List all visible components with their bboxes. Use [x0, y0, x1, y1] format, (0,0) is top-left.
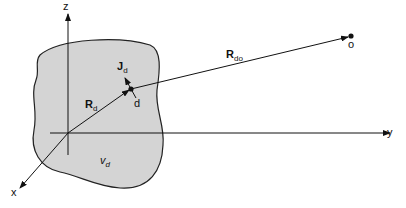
volume-region — [33, 40, 163, 188]
vector-r-d-label: Rd — [85, 99, 97, 113]
volume-label: vd — [100, 155, 110, 169]
x-axis-label: x — [11, 187, 17, 198]
z-axis-label: z — [63, 1, 69, 12]
point-d — [128, 86, 133, 91]
point-o-label: o — [348, 39, 354, 50]
vector-j-d-label: Jd — [117, 61, 128, 75]
point-d-label: d — [134, 98, 140, 109]
y-axis-label: y — [387, 127, 393, 138]
vector-r-do-label: Rdo — [226, 49, 243, 63]
diagram-canvas — [0, 0, 406, 208]
